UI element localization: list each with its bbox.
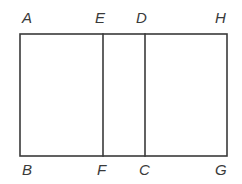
- vertex-label-a: A: [22, 10, 32, 25]
- geometry-figure: A E D H B F C G: [0, 0, 242, 184]
- vertex-label-c: C: [139, 162, 150, 177]
- figure-canvas: [0, 0, 242, 184]
- vertex-label-b: B: [22, 162, 32, 177]
- vertex-label-e: E: [95, 10, 105, 25]
- vertex-label-h: H: [215, 10, 226, 25]
- figure-strokes: [20, 34, 227, 156]
- vertex-label-g: G: [215, 162, 227, 177]
- vertex-label-f: F: [97, 162, 106, 177]
- vertex-label-d: D: [136, 10, 147, 25]
- rectangle-outline: [20, 34, 227, 156]
